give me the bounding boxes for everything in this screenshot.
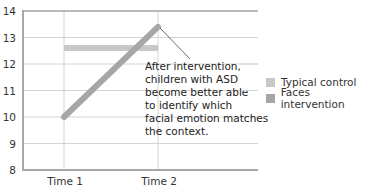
y-tick-label: 10 bbox=[3, 111, 16, 123]
y-tick-label: 8 bbox=[9, 164, 16, 176]
annotation-line: the context. bbox=[145, 125, 208, 137]
y-tick-label: 13 bbox=[3, 32, 16, 44]
y-tick-label: 11 bbox=[3, 85, 16, 97]
y-tick-label: 9 bbox=[9, 138, 16, 150]
annotation-line: children with ASD bbox=[145, 73, 238, 85]
x-axis-labels: Time 1 Time 2 bbox=[46, 175, 177, 187]
x-tick-label: Time 1 bbox=[46, 175, 83, 187]
legend-item-faces-intervention: Faces intervention bbox=[266, 90, 374, 106]
legend-swatch bbox=[266, 78, 275, 87]
annotation-line: become better able bbox=[145, 86, 248, 98]
annotation-leader-line bbox=[160, 28, 190, 59]
annotation-text: After intervention, children with ASD be… bbox=[145, 60, 268, 137]
annotation-line: After intervention, bbox=[145, 60, 241, 72]
series-line-faces-intervention bbox=[64, 27, 158, 117]
legend-label: Faces intervention bbox=[281, 86, 374, 110]
legend-swatch bbox=[266, 94, 275, 103]
annotation-line: facial emotion matches bbox=[145, 112, 268, 124]
y-tick-label: 12 bbox=[3, 58, 16, 70]
y-tick-label: 14 bbox=[3, 5, 17, 17]
legend: Typical control Faces intervention bbox=[266, 74, 374, 106]
x-tick-label: Time 2 bbox=[140, 175, 177, 187]
annotation-line: to identify which bbox=[145, 99, 232, 111]
y-axis-labels: 14 13 12 11 10 9 8 bbox=[3, 5, 17, 176]
